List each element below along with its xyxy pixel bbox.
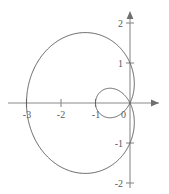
y-tick-label-neg2: -2	[115, 178, 123, 189]
x-axis-arrow-icon	[151, 100, 159, 107]
x-tick-label-neg2: -2	[57, 109, 65, 120]
chart-canvas: -3 -2 -1 0 2 1 -1 -2	[0, 0, 169, 194]
y-axis	[126, 11, 134, 188]
y-tick-label-pos1: 1	[118, 58, 123, 69]
x-tick-label-neg3: -3	[23, 109, 31, 120]
y-tick-label-neg1: -1	[115, 138, 123, 149]
polar-curve-chart: -3 -2 -1 0 2 1 -1 -2	[0, 0, 169, 194]
origin-label: 0	[121, 109, 126, 120]
x-tick-label-neg1: -1	[92, 109, 100, 120]
y-axis-arrow-icon	[127, 11, 134, 19]
x-axis	[8, 99, 159, 107]
y-tick-label-pos2: 2	[118, 18, 123, 29]
